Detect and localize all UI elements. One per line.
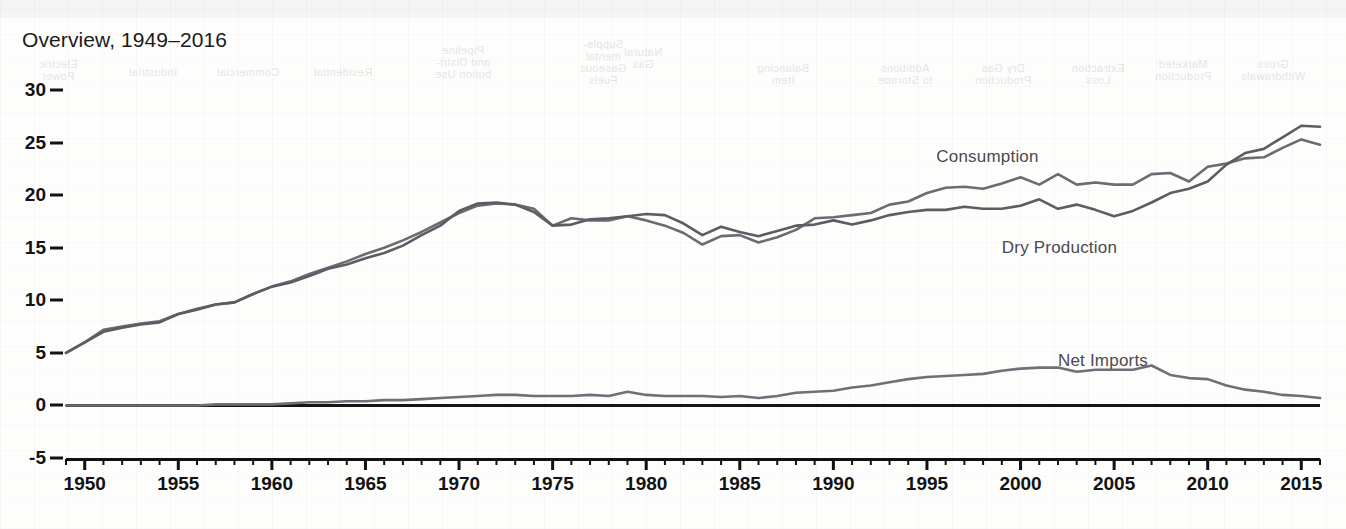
x-axis-tick-label: 1965: [344, 473, 386, 495]
y-axis-tick-label: 0: [6, 394, 46, 416]
y-axis-tick-label: -5: [6, 447, 46, 469]
y-axis-tick-mark: [50, 351, 63, 354]
x-axis-tick-label: 1950: [64, 473, 106, 495]
chart-page: Natural GasSupple- mental Gaseous FuelsB…: [0, 0, 1346, 529]
y-axis-tick-mark: [50, 246, 63, 249]
x-axis-tick-label: 2000: [999, 473, 1041, 495]
x-axis-tick-label: 2015: [1280, 473, 1322, 495]
x-axis-tick-label: 1995: [906, 473, 948, 495]
series-label-net-imports: Net Imports: [1058, 351, 1148, 371]
y-axis-tick-mark: [50, 404, 63, 407]
y-axis-tick-label: 15: [6, 237, 46, 259]
x-axis-tick-label: 1970: [438, 473, 480, 495]
series-line-consumption: [66, 139, 1320, 352]
series-lines: [0, 0, 1346, 529]
series-label-dry-production: Dry Production: [1002, 238, 1117, 258]
y-axis-tick-label: 30: [6, 79, 46, 101]
plot-area: 302520151050-519501955196019651970197519…: [0, 0, 1346, 529]
y-axis-tick-mark: [50, 457, 63, 460]
y-axis-tick-mark: [50, 141, 63, 144]
y-axis-tick-label: 10: [6, 289, 46, 311]
x-axis-line: [66, 458, 1320, 461]
x-axis-tick-label: 1980: [625, 473, 667, 495]
x-axis-tick-label: 2010: [1187, 473, 1229, 495]
x-axis-tick-label: 1990: [812, 473, 854, 495]
x-axis-tick-label: 1975: [531, 473, 573, 495]
y-axis-tick-label: 25: [6, 132, 46, 154]
y-axis-tick-label: 20: [6, 184, 46, 206]
series-label-consumption: Consumption: [936, 147, 1038, 167]
y-axis-tick-label: 5: [6, 342, 46, 364]
x-axis-tick-label: 2005: [1093, 473, 1135, 495]
x-axis-tick-label: 1960: [251, 473, 293, 495]
x-axis-tick-label: 1985: [719, 473, 761, 495]
x-axis-tick-label: 1955: [157, 473, 199, 495]
series-line-net-imports: [66, 365, 1320, 405]
y-axis-tick-mark: [50, 299, 63, 302]
y-axis-tick-mark: [50, 194, 63, 197]
y-axis-tick-mark: [50, 89, 63, 92]
